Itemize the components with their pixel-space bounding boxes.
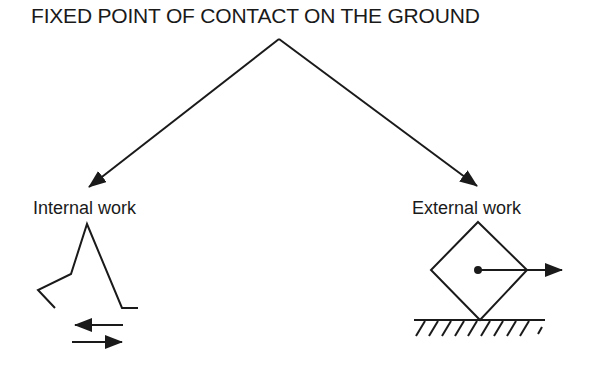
internal-work-force-arrows [72,325,123,342]
arrow-to-external [279,39,477,186]
external-work-figure [431,222,562,320]
arrow-to-internal [89,39,279,187]
branch-arrows [89,39,477,187]
internal-work-figure [38,224,138,308]
leg-segments-icon [38,224,138,308]
ground-icon [414,320,545,336]
diagram-canvas [0,0,589,371]
